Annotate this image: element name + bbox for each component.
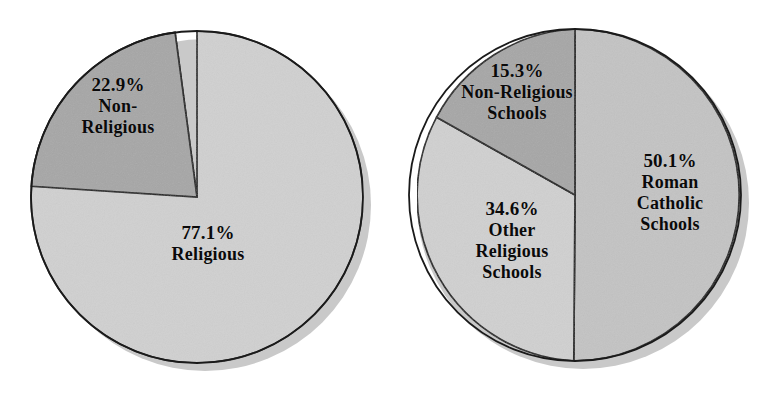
pie-slice-non-religious[interactable] [31, 32, 197, 197]
pie-chart-figure: 22.9% Non- Religious 77.1% Religious [0, 0, 779, 406]
pie-chart-right-svg [390, 0, 779, 406]
pie-slice-roman-catholic[interactable] [574, 29, 739, 361]
pie-chart-left-svg [0, 0, 390, 406]
pie-slices-group [31, 31, 363, 363]
pie-slices-group [417, 29, 739, 361]
pie-chart-left: 22.9% Non- Religious 77.1% Religious [0, 0, 390, 406]
pie-chart-right: 15.3% Non-Religious Schools 34.6% Other … [390, 0, 779, 406]
